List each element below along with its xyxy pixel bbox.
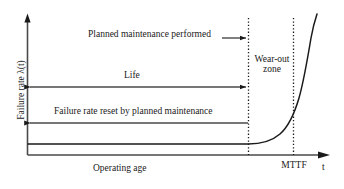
wear-out-zone-line-1: Wear-out — [255, 54, 290, 64]
life-label: Life — [124, 71, 140, 81]
x-axis — [28, 152, 331, 159]
failure-rate-reset-label: Failure rate reset by planned maintenanc… — [54, 107, 213, 117]
wear-out-zone-label: Wear-out zone — [251, 55, 293, 75]
mttf-label: MTTF — [276, 161, 312, 171]
x-axis-end-label: t — [322, 163, 325, 173]
planned-maintenance-label: Planned maintenance performed — [88, 30, 211, 40]
y-axis-label: Failure rate λ(t) — [17, 30, 27, 150]
failure-rate-diagram: Failure rate λ(t) Planned maintenance pe… — [0, 0, 344, 189]
x-axis-label: Operating age — [93, 164, 147, 174]
wear-out-zone-line-2: zone — [263, 64, 281, 74]
